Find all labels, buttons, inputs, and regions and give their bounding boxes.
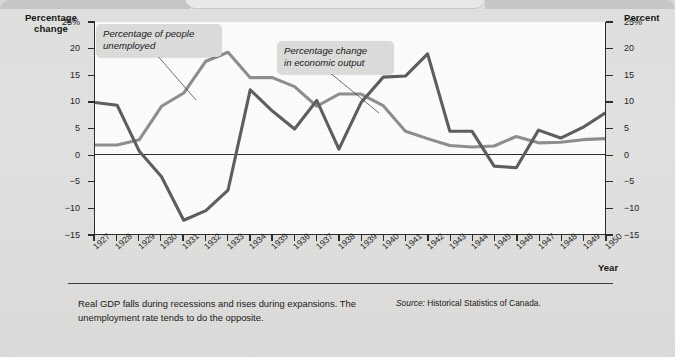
y-tick-mark-right (606, 155, 613, 156)
caption-divider (68, 283, 613, 284)
output-callout-line2: in economic output (284, 57, 387, 69)
y-tick-mark-left (88, 21, 95, 22)
unemployment-callout: Percentage of people unemployed (96, 24, 222, 57)
caption-source-label: Source: (396, 298, 425, 308)
y-tick-label-left: 10 (46, 97, 80, 106)
y-tick-label-right: 10 (624, 97, 658, 106)
y-tick-label-left: 0 (46, 151, 80, 160)
y-tick-label-left: −10 (46, 204, 80, 213)
caption-source: Source: Historical Statistics of Canada. (396, 297, 646, 309)
y-tick-label-left: 15 (46, 71, 80, 80)
y-tick-label-right: 0 (624, 151, 658, 160)
y-tick-mark-right (606, 75, 613, 76)
output-callout: Percentage change in economic output (277, 41, 394, 74)
y-tick-mark-left (88, 181, 95, 182)
x-axis-title: Year (598, 262, 618, 273)
unemployment-callout-line1: Percentage of people (103, 28, 215, 40)
y-tick-mark-right (606, 181, 613, 182)
unemployment-callout-line2: unemployed (103, 40, 215, 52)
y-tick-mark-left (88, 75, 95, 76)
y-tick-label-left: −5 (46, 177, 80, 186)
caption-zone: Real GDP falls during recessions and ris… (0, 281, 675, 357)
y-tick-label-left: −15 (46, 231, 80, 240)
y-tick-label-right: 5 (624, 124, 658, 133)
y-tick-mark-right (606, 128, 613, 129)
y-tick-label-right: −15 (624, 231, 658, 240)
y-tick-label-right: 15 (624, 71, 658, 80)
y-tick-mark-right (606, 48, 613, 49)
y-tick-label-left: 5 (46, 124, 80, 133)
y-tick-label-left: 20 (46, 44, 80, 53)
y-tick-label-right: −5 (624, 177, 658, 186)
y-tick-label-right: −10 (624, 204, 658, 213)
caption-source-value: Historical Statistics of Canada. (427, 298, 541, 308)
y-tick-mark-right (606, 21, 613, 22)
y-tick-mark-left (88, 101, 95, 102)
y-tick-label-right: 20 (624, 44, 658, 53)
y-tick-mark-left (88, 155, 95, 156)
y-tick-label-left: 25% (46, 18, 80, 27)
figure-panel: Percentage change Percent Year 25%201510… (0, 0, 675, 357)
output-callout-line1: Percentage change (284, 45, 387, 57)
y-tick-mark-left (88, 208, 95, 209)
y-tick-label-right: 25% (624, 18, 658, 27)
output-line (95, 54, 605, 220)
y-tick-mark-right (606, 208, 613, 209)
y-tick-mark-right (606, 101, 613, 102)
y-tick-mark-left (88, 48, 95, 49)
caption-text: Real GDP falls during recessions and ris… (78, 297, 378, 325)
plot-region: Percentage change Percent Year 25%201510… (0, 0, 675, 280)
y-tick-mark-left (88, 128, 95, 129)
